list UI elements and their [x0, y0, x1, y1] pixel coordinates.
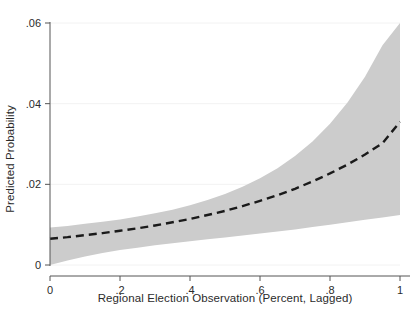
- y-tick-label: .06: [26, 17, 41, 29]
- confidence-interval-band: [50, 23, 400, 265]
- plot-canvas: [0, 0, 417, 318]
- y-tick-label: .04: [26, 98, 41, 110]
- y-tick-label: 0: [35, 259, 41, 271]
- y-tick-label: .02: [26, 178, 41, 190]
- chart-figure: Predicted Probability 0.02.04.06 0.2.4.6…: [0, 0, 417, 318]
- x-axis-title: Regional Election Observation (Percent, …: [50, 292, 400, 304]
